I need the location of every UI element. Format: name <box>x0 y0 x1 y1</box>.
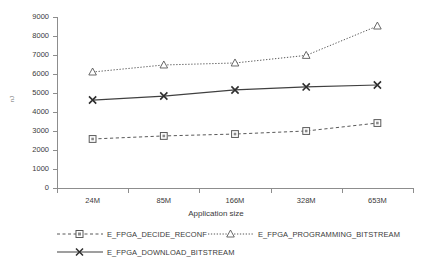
legend-item-decide-reconf[interactable]: E_FPGA_DECIDE_RECONF <box>57 227 207 241</box>
legend-swatch-download-bitstream <box>57 246 103 258</box>
legend-swatch-decide-reconf <box>57 228 103 240</box>
data-point-triangle <box>231 59 239 66</box>
data-point-square <box>160 133 167 140</box>
data-point-square <box>232 131 239 138</box>
data-point-square <box>374 120 381 127</box>
legend-label-programming-bitstream: E_FPGA_PROGRAMMING_BITSTREAM <box>258 230 400 239</box>
data-point-square <box>89 136 96 143</box>
data-point-square <box>303 128 310 135</box>
series-E_FPGA_DECIDE_RECONF <box>89 120 381 143</box>
chart-legend: E_FPGA_DECIDE_RECONF E_FPGA_PROGRAMMING_… <box>0 225 432 265</box>
data-point-triangle <box>89 68 97 75</box>
legend-label-download-bitstream: E_FPGA_DOWNLOAD_BITSTREAM <box>107 248 235 257</box>
line-chart: 9000800070006000500040003000200010000 24… <box>0 0 432 268</box>
legend-item-programming-bitstream[interactable]: E_FPGA_PROGRAMMING_BITSTREAM <box>208 227 400 241</box>
legend-label-decide-reconf: E_FPGA_DECIDE_RECONF <box>107 230 207 239</box>
data-point-triangle <box>160 61 168 68</box>
data-point-triangle <box>302 51 310 58</box>
data-point-triangle <box>374 22 382 29</box>
legend-swatch-programming-bitstream <box>208 228 254 240</box>
legend-item-download-bitstream[interactable]: E_FPGA_DOWNLOAD_BITSTREAM <box>57 245 235 259</box>
series-E_FPGA_DOWNLOAD_BITSTREAM <box>89 81 381 103</box>
series-E_FPGA_PROGRAMMING_BITSTREAM <box>89 22 381 75</box>
